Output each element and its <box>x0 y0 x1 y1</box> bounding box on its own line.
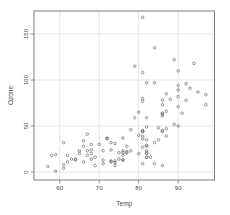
data-point <box>102 159 105 162</box>
y-axis-title: Ozone <box>7 86 14 106</box>
data-point <box>114 164 117 167</box>
data-point <box>153 82 156 85</box>
data-point <box>165 110 168 113</box>
data-point <box>51 154 54 157</box>
data-point <box>90 158 93 161</box>
data-point <box>141 97 144 100</box>
data-point <box>114 162 117 165</box>
data-point <box>78 150 81 153</box>
data-point <box>70 158 73 161</box>
data-point <box>90 143 93 146</box>
data-point <box>161 99 164 102</box>
ticks-group: 60708090050100150 <box>24 28 183 191</box>
data-point <box>145 139 148 142</box>
data-point <box>102 150 105 153</box>
data-point <box>153 141 156 144</box>
data-point <box>114 142 117 145</box>
data-point <box>173 123 176 126</box>
data-point <box>141 162 144 165</box>
data-point <box>90 149 93 152</box>
data-point <box>157 127 160 130</box>
data-point <box>47 165 50 168</box>
data-point <box>153 162 156 165</box>
y-tick-label: 50 <box>24 122 30 129</box>
y-tick-label: 0 <box>24 170 30 174</box>
data-point <box>62 167 65 170</box>
data-point <box>157 139 160 142</box>
data-point <box>173 59 176 62</box>
data-point <box>141 138 144 141</box>
data-point <box>118 151 121 154</box>
data-point <box>130 150 133 153</box>
data-point <box>90 152 93 155</box>
data-point <box>66 161 69 164</box>
data-point <box>62 141 65 144</box>
data-point <box>141 100 144 103</box>
data-point <box>205 104 208 107</box>
x-tick-label: 70 <box>96 185 103 191</box>
data-point <box>110 141 113 144</box>
data-point <box>145 116 148 119</box>
data-points-group <box>47 16 208 172</box>
data-point <box>78 152 81 155</box>
scatter-plot-figure: 60708090050100150 Temp Ozone <box>0 0 230 215</box>
y-tick-label: 100 <box>24 74 30 85</box>
data-point <box>130 128 133 131</box>
data-point <box>161 104 164 107</box>
scatter-plot-canvas: 60708090050100150 Temp Ozone <box>0 0 230 215</box>
data-point <box>153 47 156 50</box>
data-point <box>145 156 148 159</box>
x-tick-label: 60 <box>56 185 63 191</box>
data-point <box>141 135 144 138</box>
data-point <box>145 82 148 85</box>
data-point <box>189 87 192 90</box>
data-point <box>185 99 188 102</box>
data-point <box>126 145 129 148</box>
data-point <box>118 158 121 161</box>
data-point <box>165 128 168 131</box>
data-point <box>169 98 172 101</box>
data-point <box>181 112 184 115</box>
data-point <box>94 164 97 167</box>
data-point <box>66 154 69 157</box>
data-point <box>149 156 152 159</box>
x-axis-title: Temp <box>116 200 132 208</box>
data-point <box>122 159 125 162</box>
data-point <box>165 93 168 96</box>
data-point <box>110 149 113 152</box>
data-point <box>86 154 89 157</box>
data-point <box>122 137 125 140</box>
data-point <box>122 154 125 157</box>
x-tick-label: 90 <box>175 185 182 191</box>
data-point <box>82 161 85 164</box>
data-point <box>185 82 188 85</box>
data-point <box>62 163 65 166</box>
data-point <box>133 116 136 119</box>
data-point <box>141 16 144 19</box>
data-point <box>82 139 85 142</box>
y-tick-label: 150 <box>24 28 30 39</box>
data-point <box>141 71 144 74</box>
data-point <box>54 153 57 156</box>
data-point <box>141 146 144 149</box>
data-point <box>193 62 196 65</box>
data-point <box>133 65 136 68</box>
data-point <box>86 150 89 153</box>
data-point <box>82 145 85 148</box>
data-point <box>86 133 89 136</box>
data-point <box>197 91 200 94</box>
x-tick-label: 80 <box>135 185 142 191</box>
data-point <box>205 93 208 96</box>
data-point <box>165 135 168 138</box>
data-point <box>94 156 97 159</box>
data-point <box>161 164 164 167</box>
data-point <box>102 162 105 165</box>
